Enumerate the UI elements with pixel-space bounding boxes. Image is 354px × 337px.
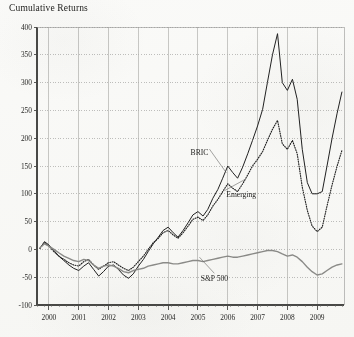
svg-text:2005: 2005 xyxy=(191,313,206,322)
svg-text:-100: -100 xyxy=(18,301,32,310)
svg-text:2001: 2001 xyxy=(71,313,86,322)
svg-text:2004: 2004 xyxy=(161,313,176,322)
gridlines xyxy=(37,27,344,305)
svg-text:2006: 2006 xyxy=(220,313,235,322)
svg-text:150: 150 xyxy=(21,162,32,171)
svg-text:2002: 2002 xyxy=(101,313,116,322)
series-label-emerging: Emerging xyxy=(226,190,256,199)
series-label-s-p-500: S&P 500 xyxy=(201,274,229,283)
series-label-bric: BRIC xyxy=(191,148,209,157)
x-axis-tick-labels: 2000200120022003200420052006200720082009 xyxy=(42,313,325,322)
svg-text:200: 200 xyxy=(21,134,32,143)
svg-text:0: 0 xyxy=(28,245,32,254)
svg-text:-50: -50 xyxy=(22,273,32,282)
svg-text:250: 250 xyxy=(21,106,32,115)
svg-text:2009: 2009 xyxy=(310,313,325,322)
axis-ticks xyxy=(34,27,343,310)
svg-text:100: 100 xyxy=(21,189,32,198)
svg-text:2000: 2000 xyxy=(42,313,57,322)
svg-text:50: 50 xyxy=(25,217,33,226)
chart-figure: Cumulative Returns BRICEmergingS&P 500 -… xyxy=(0,0,354,337)
svg-text:2008: 2008 xyxy=(280,313,295,322)
svg-text:300: 300 xyxy=(21,78,32,87)
cumulative-returns-line-chart: BRICEmergingS&P 500 -100-500501001502002… xyxy=(0,0,354,337)
series-line-emerging xyxy=(40,120,342,270)
chart-title: Cumulative Returns xyxy=(9,3,88,13)
svg-text:350: 350 xyxy=(21,50,32,59)
y-axis-tick-labels: -100-50050100150200250300350400 xyxy=(18,23,32,310)
leader-line-bric xyxy=(209,149,226,173)
series-line-s-p-500 xyxy=(40,244,342,275)
svg-text:400: 400 xyxy=(21,23,32,32)
svg-text:2007: 2007 xyxy=(250,313,265,322)
svg-text:2003: 2003 xyxy=(131,313,146,322)
